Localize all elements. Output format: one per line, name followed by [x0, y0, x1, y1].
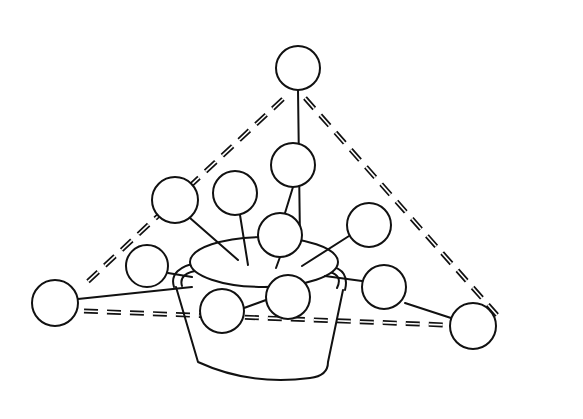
- ball-right-upper: [347, 203, 391, 247]
- ball-far-left: [32, 280, 78, 326]
- ball-top: [276, 46, 320, 90]
- ball-right-mid: [362, 265, 406, 309]
- balls: [32, 46, 496, 349]
- ball-upper-middle: [213, 171, 257, 215]
- ball-front-right: [266, 275, 310, 319]
- bowl: [173, 237, 346, 380]
- ball-center: [258, 213, 302, 257]
- bowl-of-balls-drawing: [0, 0, 583, 419]
- drawing-svg: [0, 0, 583, 419]
- ball-upper-right-inner: [271, 143, 315, 187]
- ball-left-mid: [126, 245, 168, 287]
- ball-front-left: [200, 289, 244, 333]
- ball-far-right: [450, 303, 496, 349]
- ball-upper-left: [152, 177, 198, 223]
- bowl-body: [176, 287, 343, 380]
